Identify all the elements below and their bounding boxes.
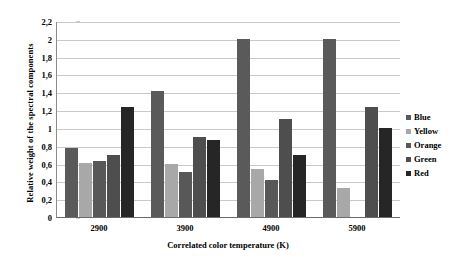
- plot-area: [56, 22, 400, 218]
- bar-group-2900: [57, 22, 143, 217]
- legend-item-green[interactable]: Green: [406, 152, 464, 166]
- bar-red-5900: [379, 128, 392, 217]
- bar-group-3900: [143, 22, 229, 217]
- bar-blue-3900: [151, 91, 164, 217]
- x-tick-label-3900: 3900: [142, 221, 228, 239]
- x-axis-tick-labels: 2900390049005900: [56, 221, 400, 239]
- bar-blue-5900: [323, 39, 336, 217]
- bar-blue-2900: [65, 148, 78, 217]
- legend-label: Red: [414, 169, 429, 178]
- legend-label: Orange: [414, 141, 441, 150]
- legend-label: Green: [414, 155, 437, 164]
- bar-green-5900: [365, 107, 378, 217]
- x-axis-title: Correlated color temperature (K): [56, 240, 400, 250]
- legend-swatch-yellow-icon: [406, 129, 411, 134]
- y-tick-label: 1,2: [24, 107, 52, 116]
- y-tick-label: 2,2: [24, 18, 52, 27]
- bar-yellow-5900: [337, 188, 350, 217]
- bar-chart: Relative weight of the spectral componen…: [0, 0, 465, 277]
- bar-groups: [57, 22, 400, 217]
- bar-red-3900: [207, 140, 220, 217]
- bar-group-5900: [314, 22, 400, 217]
- legend-swatch-orange-icon: [406, 143, 411, 148]
- bar-red-2900: [121, 107, 134, 217]
- bar-yellow-3900: [165, 164, 178, 217]
- legend-label: Yellow: [414, 127, 438, 136]
- y-tick-label: 0,6: [24, 160, 52, 169]
- y-tick-label: 1,4: [24, 89, 52, 98]
- y-tick-label: 0,4: [24, 178, 52, 187]
- legend-item-yellow[interactable]: Yellow: [406, 124, 464, 138]
- x-tick-label-2900: 2900: [56, 221, 142, 239]
- y-tick-label: 0: [24, 214, 52, 223]
- legend: BlueYellowOrangeGreenRed: [406, 110, 464, 180]
- bar-orange-2900: [93, 161, 106, 217]
- y-tick-label: 0,8: [24, 142, 52, 151]
- y-tick-label: 0,2: [24, 196, 52, 205]
- bar-green-4900: [279, 119, 292, 217]
- bar-group-4900: [229, 22, 315, 217]
- y-tick-label: 1: [24, 125, 52, 134]
- bar-yellow-2900: [79, 163, 92, 217]
- bar-yellow-4900: [251, 169, 264, 217]
- legend-swatch-blue-icon: [406, 115, 411, 120]
- legend-label: Blue: [414, 113, 431, 122]
- bar-red-4900: [293, 155, 306, 217]
- y-axis-tick-labels: 00,20,40,60,811,21,41,61,822,2: [24, 22, 52, 218]
- legend-item-orange[interactable]: Orange: [406, 138, 464, 152]
- y-tick-label: 2: [24, 36, 52, 45]
- bar-green-2900: [107, 155, 120, 217]
- x-tick-label-5900: 5900: [314, 221, 400, 239]
- bar-orange-3900: [179, 172, 192, 217]
- y-tick-label: 1,6: [24, 71, 52, 80]
- bar-blue-4900: [237, 39, 250, 217]
- bar-green-3900: [193, 137, 206, 217]
- legend-item-blue[interactable]: Blue: [406, 110, 464, 124]
- legend-swatch-green-icon: [406, 157, 411, 162]
- legend-item-red[interactable]: Red: [406, 166, 464, 180]
- bar-orange-4900: [265, 180, 278, 217]
- legend-swatch-red-icon: [406, 171, 411, 176]
- x-tick-label-4900: 4900: [228, 221, 314, 239]
- y-tick-label: 1,8: [24, 53, 52, 62]
